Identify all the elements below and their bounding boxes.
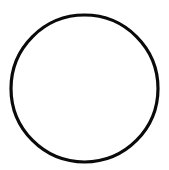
diagram-canvas (0, 0, 169, 170)
background (0, 0, 169, 170)
